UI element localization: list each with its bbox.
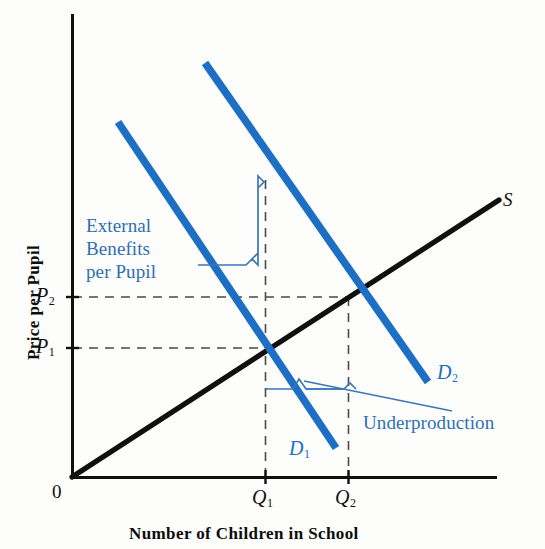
economics-diagram: Price per Pupil Number of Children in Sc… (0, 0, 545, 549)
x-tick-q2-sub: 2 (350, 496, 356, 510)
y-tick-p1-sub: 1 (49, 345, 55, 359)
origin-label: 0 (52, 481, 62, 502)
curve-d1-sub: 1 (304, 447, 310, 461)
y-tick-p2-sub: 2 (49, 294, 55, 308)
curve-d2-letter: D (437, 361, 451, 383)
y-tick-label-p1: P1 (36, 335, 54, 357)
demand-curve-D2 (205, 63, 428, 382)
x-tick-q1-letter: Q (252, 486, 266, 508)
x-tick-label-q1: Q1 (252, 486, 272, 508)
curve-d1-letter: D (289, 437, 303, 459)
x-tick-q1-sub: 1 (267, 496, 273, 510)
underproduction-brace (266, 379, 356, 389)
diagram-canvas (0, 0, 545, 549)
demand-curve-D1 (118, 122, 336, 448)
external-benefits-line-2: Benefits (86, 237, 156, 260)
curve-d2-sub: 2 (452, 371, 458, 385)
underproduction-annotation: Underproduction (363, 412, 494, 433)
curve-label-s: S (503, 189, 513, 210)
x-tick-label-q2: Q2 (335, 486, 355, 508)
x-axis-title: Number of Children in School (129, 524, 359, 543)
curve-label-d2: D2 (437, 361, 457, 383)
external-benefits-line-1: External (86, 214, 156, 237)
external-benefits-annotation: External Benefits per Pupil (86, 214, 156, 284)
y-tick-p1-letter: P (36, 335, 48, 357)
curve-label-d1: D1 (289, 437, 309, 459)
external-benefits-line-3: per Pupil (86, 260, 156, 283)
y-tick-label-p2: P2 (36, 284, 54, 306)
y-tick-p2-letter: P (36, 284, 48, 306)
underproduction-leader-line (304, 381, 452, 411)
x-tick-q2-letter: Q (335, 486, 349, 508)
